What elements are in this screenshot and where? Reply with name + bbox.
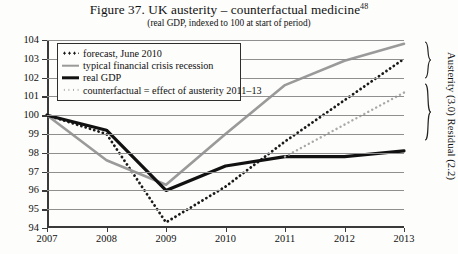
y-axis-tick [42,209,47,210]
y-axis-tick [42,172,47,173]
y-axis-label: 95 [29,204,39,214]
legend-label-counterfactual: counterfactual = effect of austerity 201… [83,85,262,96]
gridline [47,190,404,191]
y-axis-label: 98 [29,148,39,158]
title-footnote-marker: 48 [360,2,368,11]
legend-swatch-solid-gray-icon [62,60,79,71]
y-axis-label: 101 [23,91,39,101]
gridline [47,153,404,154]
series-line [285,93,404,157]
y-axis-tick [42,59,47,60]
side-annotation-label: Austerity (3.0) Residual (2.2) [446,52,457,180]
y-axis-tick [42,96,47,97]
y-axis-tick [42,190,47,191]
gridline [47,134,404,135]
legend-label-typical-recession: typical financial crisis recession [83,60,213,71]
x-axis-tick [226,228,227,232]
legend-item-typical-recession: typical financial crisis recession [62,59,235,71]
y-axis-label: 99 [29,129,39,139]
x-axis-tick [345,228,346,232]
x-axis-tick [285,228,286,232]
x-axis-label: 2008 [96,233,117,244]
legend-label-forecast: forecast, June 2010 [83,48,162,59]
x-axis-tick [47,228,48,232]
chart-title: Figure 37. UK austerity – counterfactual… [0,2,458,18]
y-axis-label: 100 [23,110,39,120]
y-axis-label: 94 [29,223,39,233]
x-axis-label: 2011 [275,233,295,244]
legend-item-counterfactual: counterfactual = effect of austerity 201… [62,84,235,96]
y-axis-label: 96 [29,185,39,195]
brace-icon [423,0,439,254]
legend-swatch-solid-black-icon [62,72,79,83]
gridline [47,172,404,173]
title-block: Figure 37. UK austerity – counterfactual… [0,2,458,28]
x-axis-label: 2012 [334,233,355,244]
chart-title-text: Figure 37. UK austerity – counterfactual… [90,2,360,17]
legend-swatch-dotted-light-icon [62,85,79,96]
y-axis-tick [42,115,47,116]
x-axis-tick [107,228,108,232]
y-axis-label: 103 [23,54,39,64]
y-axis-tick [42,153,47,154]
legend-label-real-gdp: real GDP [83,72,121,83]
chart-subtitle: (real GDP, indexed to 100 at start of pe… [0,18,458,28]
y-axis-tick [42,134,47,135]
legend-swatch-dotted-dark-icon [62,48,79,59]
side-annotation: Austerity (3.0) Residual (2.2) [446,0,457,232]
x-axis-label: 2007 [37,233,58,244]
x-axis-label: 2013 [394,233,415,244]
y-axis-label: 97 [29,166,39,176]
figure-chart: Figure 37. UK austerity – counterfactual… [0,0,458,254]
legend-item-forecast: forecast, June 2010 [62,47,235,59]
y-axis-label: 102 [23,72,39,82]
x-axis-tick [166,228,167,232]
x-axis-tick [404,228,405,232]
legend: forecast, June 2010 typical financial cr… [57,43,241,101]
gridline [47,115,404,116]
x-axis-label: 2009 [156,233,177,244]
legend-item-real-gdp: real GDP [62,72,235,84]
y-axis-tick [42,40,47,41]
x-axis-label: 2010 [215,233,236,244]
gridline [47,209,404,210]
y-axis-tick [42,78,47,79]
gridline [47,40,404,41]
y-axis-label: 104 [23,35,39,45]
